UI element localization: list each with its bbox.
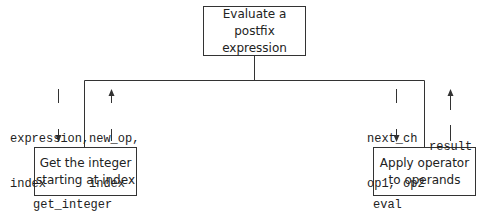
param-down-left: expression, index — [10, 102, 89, 207]
param-up-left: new_op, index — [89, 102, 139, 207]
param-line: expression, — [10, 132, 89, 147]
arrow-up-icon — [448, 89, 454, 96]
param-down-right: next_ch op1, op2 — [367, 102, 425, 207]
param-line: op1, op2 — [367, 177, 425, 192]
param-line: result — [429, 140, 472, 155]
module-root-label-line1: Evaluate a — [204, 6, 305, 23]
module-root-label-line2: postfix expression — [204, 23, 305, 57]
param-line: index — [89, 177, 139, 192]
param-line: index — [10, 177, 89, 192]
module-name-get-integer: get_integer — [33, 198, 112, 213]
module-root: Evaluate a postfix expression — [203, 6, 306, 56]
param-line: next_ch — [367, 132, 425, 147]
param-line: new_op, — [89, 132, 139, 147]
arrow-up-icon — [109, 89, 115, 96]
param-up-right: result — [429, 110, 472, 170]
module-name-eval: eval — [373, 198, 402, 213]
